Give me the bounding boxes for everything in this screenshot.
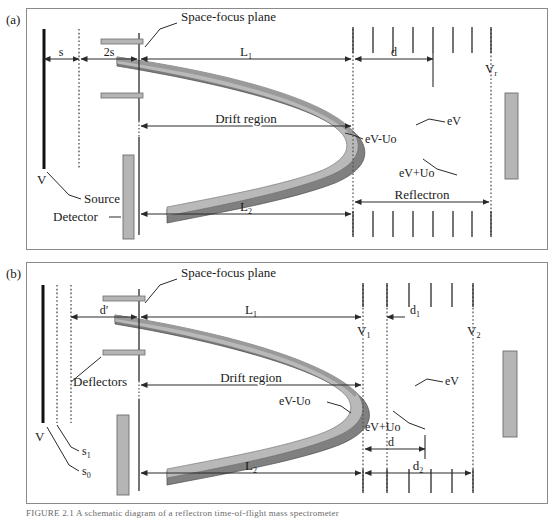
deflectors-label: Deflectors: [73, 374, 127, 389]
band-eV-leader: [415, 379, 443, 386]
reflectron-grid-bottom: [353, 211, 491, 237]
space-focus-leader: [145, 23, 177, 47]
band-eV-plus-Uo-label: eV+Uo: [399, 166, 434, 180]
voltage-V-label: V: [35, 429, 45, 444]
dim-d2-label: d2: [413, 458, 424, 475]
reflectron-label: Reflectron: [395, 187, 450, 202]
detector-plate: [123, 155, 134, 239]
dim-L1-label: L1: [245, 302, 257, 319]
space-focus-leader: [145, 279, 177, 303]
space-focus-plane-label: Space-focus plane: [181, 9, 276, 24]
detector-plate: [117, 415, 129, 495]
reflectron-back-plate: [503, 351, 517, 437]
V2-label: V2: [467, 323, 480, 340]
panel-a-tag: (a): [6, 12, 20, 28]
drift-region-label: Drift region: [215, 111, 277, 126]
panel-a-drawing: s 2s L1 d Drift region L2 Reflectron Spa…: [27, 9, 547, 249]
band-eV-label: eV: [447, 114, 461, 128]
dim-dprime-label: d′: [100, 303, 109, 317]
trajectory-band-inner: [115, 315, 363, 478]
deflector-plate-lower: [101, 93, 143, 98]
voltage-V-label: V: [37, 172, 47, 187]
dim-d-label: d: [388, 435, 394, 449]
reflectron-back-plate: [505, 93, 518, 179]
reflectron-grid-top: [353, 27, 491, 53]
s0-label: s0: [82, 464, 91, 480]
s1-leader: [57, 425, 79, 451]
panel-b-tag: (b): [6, 266, 21, 282]
detector-label: Detector: [53, 209, 98, 224]
dim-2s-label: 2s: [104, 45, 115, 59]
reflectron-voltage-label: Vr: [485, 61, 497, 78]
panel-b-drawing: d′ L1 d1 V1 V2 Drift region L2 d: [27, 263, 547, 503]
s1-label: s1: [82, 444, 91, 460]
V1-label: V1: [357, 323, 370, 340]
deflector-plate-lower: [103, 350, 145, 355]
deflector-plate-upper: [101, 39, 143, 44]
dim-d1-label: d1: [410, 303, 420, 319]
band-eV-leader: [416, 119, 445, 125]
dim-L1-label: L1: [240, 44, 252, 61]
dim-d-label: d: [391, 45, 397, 59]
band-eV-minus-Uo-leader: [327, 402, 351, 413]
band-eV-label: eV: [445, 374, 459, 388]
panel-b: d′ L1 d1 V1 V2 Drift region L2 d: [26, 262, 548, 504]
band-eV-plus-Uo-label: eV+Uo: [365, 420, 400, 434]
drift-region-label: Drift region: [220, 370, 282, 385]
figure-caption: FIGURE 2.1 A schematic diagram of a refl…: [26, 508, 546, 526]
dim-s-label: s: [59, 45, 64, 59]
reflectron-grid-top: [363, 283, 473, 307]
source-label: Source: [84, 191, 120, 206]
source-leader: [47, 172, 81, 199]
panel-a: s 2s L1 d Drift region L2 Reflectron Spa…: [26, 8, 548, 250]
band-eV-minus-Uo-label: eV-Uo: [365, 132, 397, 146]
space-focus-plane-label: Space-focus plane: [181, 265, 276, 280]
deflector-plate-upper: [103, 296, 145, 301]
band-eV-minus-Uo-label: eV-Uo: [279, 394, 311, 408]
